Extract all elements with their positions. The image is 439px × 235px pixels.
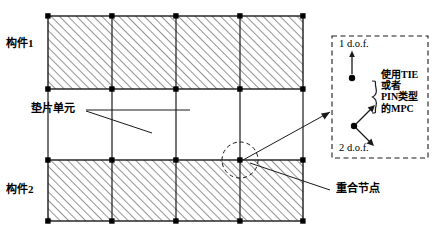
gasket-leader-lines: [86, 110, 190, 133]
label-gasket-element: 垫片单元: [31, 103, 75, 115]
label-mpc-line-4: 的MPC: [381, 103, 418, 114]
dof2-arrow-b-shaft: [356, 128, 371, 143]
label-mpc-block: 使用TIE 或者 PIN类型 的MPC: [381, 69, 418, 114]
node-marker: [173, 13, 178, 18]
node-marker: [173, 86, 178, 91]
detail-top-node-group: [349, 51, 355, 82]
dof2-arrow-a-shaft: [356, 108, 372, 124]
node-marker: [300, 86, 305, 91]
label-dof-bottom: 2 d.o.f.: [339, 142, 369, 153]
node-marker: [173, 218, 178, 223]
node-marker: [109, 157, 114, 162]
label-component-1: 构件1: [6, 38, 34, 50]
node-marker: [173, 157, 178, 162]
gasket-element-group: [48, 89, 303, 160]
node-marker: [45, 218, 50, 223]
label-mpc-line-1: 使用TIE: [381, 69, 418, 80]
node-marker: [300, 218, 305, 223]
detail-bottom-node-group: [351, 105, 375, 146]
detail-arrow-head: [321, 112, 330, 120]
diagram-canvas: 构件1 构件2 垫片单元 重合节点 1 d.o.f. 2 d.o.f. 使用TI…: [0, 0, 439, 235]
upper-block-component-1: [48, 16, 303, 89]
node-marker: [237, 13, 242, 18]
node-marker: [109, 13, 114, 18]
label-coincident-nodes: 重合节点: [336, 183, 380, 195]
detail-box-arrow: [243, 112, 330, 160]
diagram-svg: [0, 0, 439, 235]
label-dof-top: 1 d.o.f.: [339, 38, 369, 49]
detail-node-top: [349, 75, 355, 81]
node-marker: [300, 13, 305, 18]
dof1-arrow-head: [349, 51, 355, 58]
node-marker: [300, 157, 305, 162]
label-mpc-line-2: 或者: [381, 80, 418, 91]
node-marker: [45, 157, 50, 162]
node-marker: [109, 86, 114, 91]
detail-arrow-shaft: [243, 112, 330, 160]
lower-block-component-2: [48, 160, 303, 221]
node-marker: [109, 218, 114, 223]
node-marker: [237, 157, 242, 162]
node-marker: [45, 86, 50, 91]
node-marker: [237, 86, 242, 91]
label-component-2: 构件2: [6, 184, 34, 196]
node-marker: [237, 218, 242, 223]
label-mpc-line-3: PIN类型: [381, 91, 418, 102]
node-marker: [45, 13, 50, 18]
gasket-leader-lower: [86, 111, 152, 133]
